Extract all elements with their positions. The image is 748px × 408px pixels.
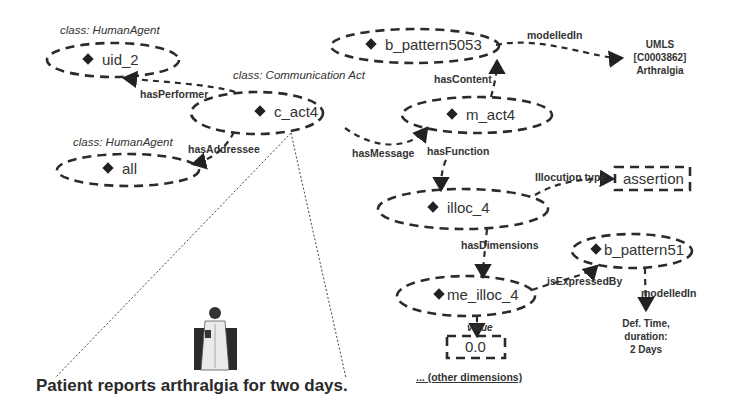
node-illoc_4[interactable]: illoc_4 xyxy=(429,199,490,216)
deftime-line-2: duration: xyxy=(616,330,676,343)
diamond-icon xyxy=(433,288,444,299)
node-label: uid_2 xyxy=(102,51,139,68)
umls-reference: UMLS [C0003862] Arthralgia xyxy=(630,38,690,77)
literal-value: 0.0 xyxy=(465,338,486,355)
deftime-line-3: 2 Days xyxy=(616,343,676,356)
edge-modelledIn-1 xyxy=(496,43,622,58)
projection-line-left xyxy=(55,133,291,378)
edge-hasFunction xyxy=(441,160,446,190)
other-dimensions-link[interactable]: ... (other dimensions) xyxy=(416,371,522,383)
node-label: b_pattern51 xyxy=(604,241,684,258)
diamond-icon xyxy=(82,53,93,64)
edge-hasDimensions xyxy=(483,229,487,277)
node-m_act4[interactable]: m_act4 xyxy=(448,106,515,123)
edge-label-modelledIn-2: modelledIn xyxy=(641,287,696,299)
diamond-icon xyxy=(427,201,438,212)
edge-label-hasPerformer: hasPerformer xyxy=(140,88,208,100)
node-b_pattern5053[interactable]: b_pattern5053 xyxy=(367,36,482,53)
class-label-all: class: HumanAgent xyxy=(73,136,173,148)
node-b_pattern51[interactable]: b_pattern51 xyxy=(592,241,684,258)
diamond-icon xyxy=(254,105,265,116)
edge-label-isExpressedBy: isExpressedBy xyxy=(547,275,622,287)
edge-label-hasMessage: hasMessage xyxy=(352,147,414,159)
node-label: illoc_4 xyxy=(447,199,490,216)
diamond-icon xyxy=(590,243,601,254)
doctor-person-icon xyxy=(194,307,237,370)
umls-line-2: [C0003862] xyxy=(630,51,690,64)
caption-sentence: Patient reports arthralgia for two days. xyxy=(36,376,348,396)
class-label-c_act4: class: Communication Act xyxy=(233,69,365,81)
umls-line-3: Arthralgia xyxy=(630,64,690,77)
node-label: m_act4 xyxy=(466,106,515,123)
edge-label-value: value xyxy=(467,322,493,333)
node-c_act4[interactable]: c_act4 xyxy=(256,103,318,120)
node-all[interactable]: all xyxy=(104,160,137,177)
node-uid_2[interactable]: uid_2 xyxy=(84,51,139,68)
diamond-icon xyxy=(446,108,457,119)
umls-line-1: UMLS xyxy=(630,38,690,51)
node-label: all xyxy=(122,160,137,177)
edge-label-hasDimensions: hasDimensions xyxy=(461,239,539,251)
deftime-line-1: Def. Time, xyxy=(616,317,676,330)
diamond-icon xyxy=(365,38,376,49)
node-label: me_illoc_4 xyxy=(447,286,519,303)
edge-label-modelledIn-1: modelledIn xyxy=(527,29,582,41)
edge-label-hasAddressee: hasAddressee xyxy=(188,143,260,155)
literal-assertion: assertion xyxy=(623,170,684,187)
deftime-reference: Def. Time, duration: 2 Days xyxy=(616,317,676,356)
projection-line-right xyxy=(291,133,346,378)
edge-label-hasContent: hasContent xyxy=(434,73,492,85)
node-me_illoc_4[interactable]: me_illoc_4 xyxy=(435,286,519,303)
edge-label-hasFunction: hasFunction xyxy=(427,145,489,157)
node-label: c_act4 xyxy=(274,103,318,120)
edge-label-illocution-type: Illocution type xyxy=(535,171,606,183)
class-label-uid_2: class: HumanAgent xyxy=(60,24,160,36)
diamond-icon xyxy=(102,162,113,173)
edge-hasMessage xyxy=(345,128,427,145)
node-label: b_pattern5053 xyxy=(385,36,482,53)
